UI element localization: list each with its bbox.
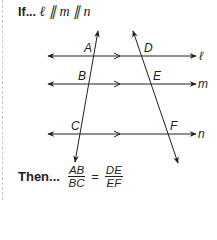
- parallel-line-l: [48, 53, 196, 59]
- transversal-def: [133, 31, 178, 163]
- point-label-f: F: [170, 119, 178, 133]
- parallel-line-m: [48, 81, 196, 87]
- point-label-e: E: [153, 69, 162, 83]
- line-label-m: m: [198, 77, 208, 91]
- numerator-ab: AB: [68, 164, 85, 177]
- denominator-bc: BC: [69, 177, 85, 189]
- then-prefix: Then...: [18, 169, 60, 184]
- denominator-ef: EF: [106, 177, 121, 189]
- fraction-ab-bc: AB BC: [68, 164, 85, 189]
- point-label-a: A: [83, 41, 92, 55]
- line-label-l: ℓ: [199, 49, 204, 63]
- point-label-c: C: [71, 119, 80, 133]
- equals-sign: =: [91, 169, 99, 184]
- point-label-d: D: [144, 41, 153, 55]
- point-label-b: B: [78, 69, 86, 83]
- fraction-de-ef: DE EF: [105, 164, 123, 189]
- conclusion-statement: Then... AB BC = DE EF: [18, 164, 125, 189]
- numerator-de: DE: [105, 164, 123, 177]
- line-label-n: n: [198, 127, 205, 141]
